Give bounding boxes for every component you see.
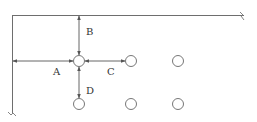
label-b: B — [86, 26, 93, 37]
dimension-diagram: A B C D — [0, 0, 257, 122]
label-c: C — [107, 66, 115, 77]
label-a: A — [52, 66, 61, 77]
node-circle — [126, 99, 137, 110]
reference-node-circle — [74, 56, 85, 67]
node-circle — [126, 56, 137, 67]
node-circle — [173, 56, 184, 67]
node-circle — [74, 99, 85, 110]
node-circle — [173, 99, 184, 110]
label-d: D — [86, 85, 94, 96]
